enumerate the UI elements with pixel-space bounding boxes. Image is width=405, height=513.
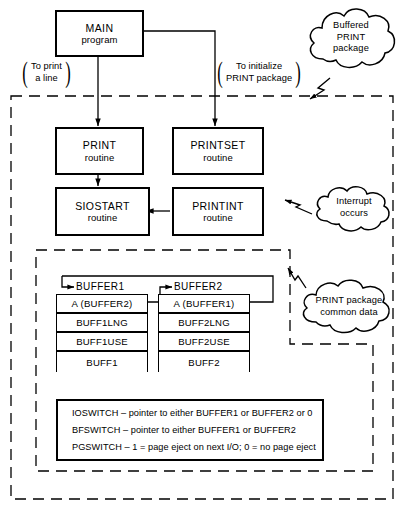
buffer2-field-1: BUFF2LNG (158, 313, 250, 332)
switch-line-bfswitch: BFSWITCH – pointer to either BUFFER1 or … (58, 425, 322, 435)
switch-legend-box: IOSWITCH – pointer to either BUFFER1 or … (56, 399, 324, 461)
cloud-print-package-common-data-text: PRINT package common data (304, 295, 394, 318)
buffer1-field-1: BUFF1LNG (56, 313, 148, 332)
cloud-line: common data (320, 307, 377, 317)
edge-main-to-printset (140, 31, 215, 126)
switch-line-iosswitch: IOSWITCH – pointer to either BUFFER1 or … (58, 408, 322, 418)
box-printint-line2: routine (203, 212, 233, 223)
box-print[interactable]: PRINT routine (55, 127, 144, 175)
box-print-line2: routine (85, 152, 115, 163)
box-printint-line1: PRINTINT (192, 200, 244, 213)
switch-line-pgswitch: PGSWITCH – 1 = page eject on next I/O; 0… (58, 442, 322, 452)
cloud-line: occurs (340, 208, 368, 218)
box-printset-line1: PRINTSET (190, 139, 245, 152)
edge-label-to-print-a-line: ( To print a line ) (20, 60, 73, 84)
cloud-line: PRINT package (316, 295, 383, 305)
edge-label-to-initialize-print: ( To initialize PRINT package ) (215, 60, 303, 84)
buffer1-field-2: BUFF1USE (56, 332, 148, 351)
box-printset-line2: routine (203, 152, 233, 163)
buffer2-field-0: A (BUFFER1) (158, 294, 250, 313)
box-printint[interactable]: PRINTINT routine (172, 187, 264, 236)
box-printset[interactable]: PRINTSET routine (172, 127, 264, 175)
buffer1-field-0: A (BUFFER2) (56, 294, 148, 313)
cloud-buffered-print-package-text: Buffered PRINT package (313, 20, 389, 55)
pointer-interrupt-occurs (285, 200, 312, 214)
buffer1-name: BUFFER1 (76, 281, 124, 292)
buffer1-field-3: BUFF1 (56, 351, 148, 372)
cloud-line: Buffered (333, 20, 369, 30)
buffer2-field-3: BUFF2 (158, 351, 250, 372)
edge-label-to-initialize-line2: PRINT package (226, 73, 292, 83)
pointer-into-buffer1 (62, 276, 74, 287)
box-main-line1: MAIN (86, 22, 114, 35)
edge-label-to-initialize-line1: To initialize (236, 61, 282, 71)
buffer2-name: BUFFER2 (174, 281, 222, 292)
cloud-line: PRINT (337, 32, 365, 42)
print-package-diagram: MAIN program PRINT routine PRINTSET rout… (0, 0, 405, 513)
box-siostart[interactable]: SIOSTART routine (55, 187, 150, 236)
edge-label-to-print-line1: To print (31, 61, 62, 71)
box-siostart-line1: SIOSTART (75, 200, 130, 213)
box-siostart-line2: routine (88, 212, 118, 223)
box-print-line1: PRINT (83, 139, 117, 152)
edge-label-to-print-line2: a line (35, 73, 58, 83)
buffer2-field-2: BUFF2USE (158, 332, 250, 351)
cloud-interrupt-occurs-text: Interrupt occurs (320, 196, 388, 219)
box-main[interactable]: MAIN program (55, 10, 144, 57)
cloud-line: Interrupt (336, 196, 372, 206)
box-main-line2: program (81, 34, 117, 45)
cloud-line: package (333, 43, 369, 53)
